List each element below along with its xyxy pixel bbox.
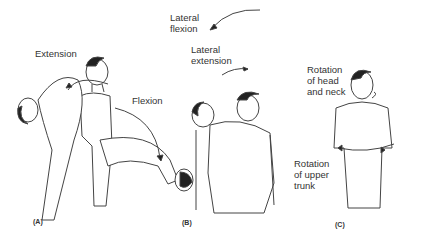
panel-label-b: (B) xyxy=(182,219,192,226)
panel-b-figure xyxy=(192,10,274,213)
annotation-rotation-head-neck: Rotation of head and neck xyxy=(307,64,346,97)
illustration xyxy=(0,0,424,248)
panel-a-figure xyxy=(18,57,193,220)
annotation-lateral-flexion: Lateral flexion xyxy=(170,12,199,34)
annotation-flexion: Flexion xyxy=(132,95,163,106)
annotation-lateral-extension: Lateral extension xyxy=(191,44,232,66)
annotation-extension: Extension xyxy=(35,48,77,59)
annotation-rotation-upper-trunk: Rotation of upper trunk xyxy=(294,158,329,191)
panel-label-a: (A) xyxy=(33,218,43,225)
panel-label-c: (C) xyxy=(335,221,345,228)
